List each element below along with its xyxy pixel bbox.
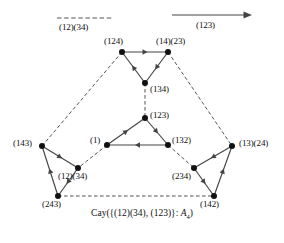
vertex-v1[interactable]: [104, 142, 110, 148]
vertex-label-v143: (143): [13, 138, 32, 148]
cayley-graph-figure: (12)(34) (123) (124)(14)(23)(134)(123)(1…: [0, 0, 284, 243]
dashed-edge: [168, 52, 232, 146]
vertex-label-v1324: (13)(24): [239, 138, 268, 148]
edge-arrowhead: [142, 49, 147, 54]
edge-arrowhead: [155, 64, 160, 70]
legend-arrow-head: [244, 12, 253, 19]
dashed-edge: [168, 145, 194, 168]
vertex-v134[interactable]: [142, 80, 148, 86]
vertex-label-v234: (234): [172, 171, 191, 181]
vertex-v234[interactable]: [191, 165, 197, 171]
vertex-v1423[interactable]: [165, 49, 171, 55]
legend-arrow-label: (123): [196, 20, 215, 30]
vertex-label-v132: (132): [172, 135, 191, 145]
vertex-label-v124: (124): [104, 36, 123, 46]
vertex-label-v123: (123): [150, 110, 169, 120]
vertex-label-v1: (1): [90, 135, 100, 145]
legend-dashed-label: (12)(34): [59, 22, 88, 32]
edge-arrowhead: [200, 178, 205, 184]
legend-layer: [57, 12, 252, 19]
edge-arrowhead: [122, 130, 128, 135]
vertex-v123[interactable]: [142, 115, 148, 121]
dashed-edge: [78, 145, 107, 168]
vertex-v1324[interactable]: [229, 143, 235, 149]
edge-arrowhead: [135, 142, 140, 147]
vertex-label-v1423: (14)(23): [156, 36, 185, 46]
vertex-v132[interactable]: [165, 142, 171, 148]
dashed-edge: [42, 52, 122, 146]
caption-suffix: ): [190, 208, 193, 218]
edge-arrowhead: [132, 65, 137, 71]
caption-prefix: Cay({(12)(34), (123)}:: [91, 208, 181, 218]
vertex-v124[interactable]: [119, 49, 125, 55]
vertex-v143[interactable]: [39, 143, 45, 149]
vertex-label-v134: (134): [150, 84, 169, 94]
figure-caption: Cay({(12)(34), (123)}: A4): [0, 208, 284, 220]
vertex-label-v1234: (12)(34): [58, 171, 87, 181]
